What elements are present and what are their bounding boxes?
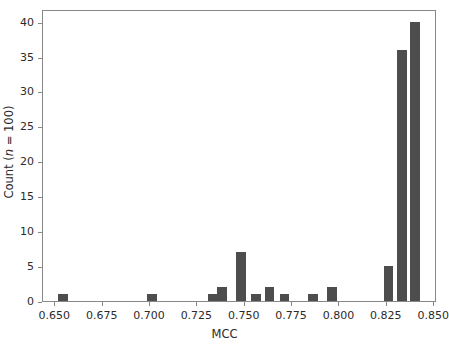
y-tick-mark xyxy=(38,162,42,163)
x-tick-mark xyxy=(291,302,292,306)
histogram-bar xyxy=(327,287,336,301)
x-tick-mark xyxy=(54,302,55,306)
y-axis-label-italic-n: n xyxy=(2,149,16,156)
x-tick-mark xyxy=(102,302,103,306)
histogram-bar xyxy=(147,294,156,301)
histogram-bar xyxy=(217,287,226,301)
y-axis-label: Count (n = 100) xyxy=(2,72,16,232)
x-tick-mark xyxy=(149,302,150,306)
y-tick-mark xyxy=(38,302,42,303)
histogram-bar xyxy=(251,294,260,301)
histogram-bar xyxy=(397,50,406,301)
plot-area xyxy=(42,10,436,302)
histogram-bar xyxy=(384,266,393,301)
y-tick-mark xyxy=(38,197,42,198)
y-tick-label: 5 xyxy=(0,260,34,273)
histogram-bar xyxy=(308,294,317,301)
y-tick-mark xyxy=(38,127,42,128)
y-tick-label: 40 xyxy=(0,16,34,29)
y-tick-mark xyxy=(38,232,42,233)
x-tick-mark xyxy=(196,302,197,306)
histogram-bar xyxy=(410,22,419,301)
y-tick-mark xyxy=(38,23,42,24)
x-tick-mark xyxy=(433,302,434,306)
y-tick-mark xyxy=(38,92,42,93)
y-axis-label-prefix: Count ( xyxy=(2,156,16,198)
y-axis-label-suffix: = 100) xyxy=(2,106,16,149)
y-tick-mark xyxy=(38,58,42,59)
x-axis-label: MCC xyxy=(0,327,449,341)
histogram-bar xyxy=(236,252,245,301)
x-tick-mark xyxy=(244,302,245,306)
histogram-bar xyxy=(208,294,217,301)
histogram-bar xyxy=(280,294,289,301)
y-tick-label: 35 xyxy=(0,51,34,64)
y-tick-mark xyxy=(38,267,42,268)
x-tick-mark xyxy=(338,302,339,306)
histogram-figure: 0510152025303540 0.6500.6750.7000.7250.7… xyxy=(0,0,449,350)
histogram-bars xyxy=(43,11,435,301)
x-tick-label: 0.850 xyxy=(403,309,449,322)
histogram-bar xyxy=(265,287,274,301)
y-tick-label: 0 xyxy=(0,295,34,308)
x-tick-mark xyxy=(386,302,387,306)
histogram-bar xyxy=(58,294,67,301)
